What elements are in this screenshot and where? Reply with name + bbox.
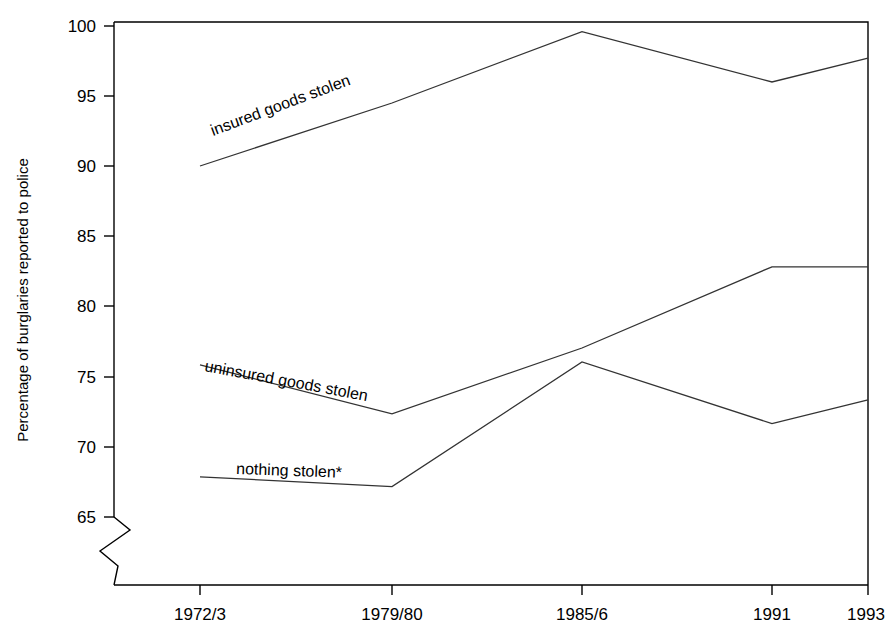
chart-figure: 100 95 90 85 80 75 70 65 1972/3 1979/80 … — [0, 0, 896, 644]
y-tick-label-75: 75 — [77, 368, 96, 387]
series-label-nothing-stolen: nothing stolen* — [236, 460, 342, 481]
y-tick-label-85: 85 — [77, 227, 96, 246]
series-label-uninsured-goods-stolen: uninsured goods stolen — [203, 357, 369, 404]
series-label-insured-goods-stolen: insured goods stolen — [208, 71, 352, 139]
y-tick-label-95: 95 — [77, 87, 96, 106]
y-tick-label-80: 80 — [77, 297, 96, 316]
y-tick-label-90: 90 — [77, 157, 96, 176]
plot-frame — [114, 22, 868, 585]
line-chart-svg: 100 95 90 85 80 75 70 65 1972/3 1979/80 … — [0, 0, 896, 644]
x-tick-label-1979-80: 1979/80 — [361, 605, 422, 624]
y-tick-label-100: 100 — [68, 17, 96, 36]
x-tick-label-1972-3: 1972/3 — [174, 605, 226, 624]
y-axis-title: Percentage of burglaries reported to pol… — [14, 158, 31, 442]
y-tick-label-70: 70 — [77, 438, 96, 457]
x-tick-label-1991: 1991 — [753, 605, 791, 624]
y-tick-label-65: 65 — [77, 508, 96, 527]
x-tick-label-1985-6: 1985/6 — [556, 605, 608, 624]
y-axis-break — [100, 517, 130, 585]
x-tick-label-1993: 1993 — [847, 605, 885, 624]
